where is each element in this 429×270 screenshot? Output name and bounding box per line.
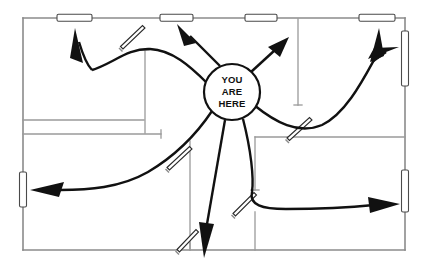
you-are-here-marker[interactable]: YOU ARE HERE	[204, 64, 260, 120]
you-are-here-line-3: HERE	[218, 98, 245, 109]
evacuation-route-group	[30, 24, 400, 258]
floorplan-diagram: YOU ARE HERE	[0, 0, 429, 270]
door-top-right-room[interactable]	[286, 118, 313, 144]
window-right-upper[interactable]	[402, 31, 409, 86]
window-top-2[interactable]	[160, 14, 193, 21]
window-left-lower[interactable]	[20, 172, 27, 207]
window-top-1[interactable]	[57, 14, 92, 21]
window-right-lower[interactable]	[402, 170, 409, 212]
route-northeast-to-top-window-3	[251, 37, 289, 72]
window-top-4[interactable]	[359, 14, 395, 21]
evacuation-map: YOU ARE HERE	[0, 0, 429, 270]
door-top-left-room[interactable]	[119, 26, 145, 52]
you-are-here-line-1: YOU	[221, 74, 242, 85]
you-are-here-line-2: ARE	[222, 86, 243, 97]
route-north-to-top-window-2	[177, 24, 220, 66]
route-east-to-top-window-4	[254, 28, 384, 128]
route-southeast-to-right-lower-window	[243, 119, 400, 213]
window-top-3[interactable]	[245, 14, 277, 21]
route-south-to-bottom-exit	[199, 120, 225, 258]
